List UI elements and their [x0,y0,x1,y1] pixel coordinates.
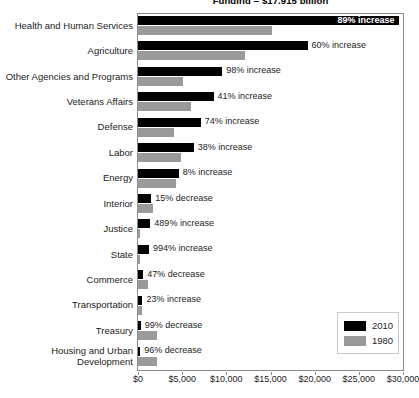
bar-value-label: 489% increase [154,218,214,228]
category-label: Health and Human Services [0,20,133,32]
x-axis-tick-label: $20,000 [298,374,331,385]
bar-1980 [138,357,157,366]
x-axis-tick-label: $0 [133,374,143,385]
bar-value-label: 41% increase [218,91,273,101]
bar-2010 [138,67,222,76]
bar-value-label: 38% increase [198,142,253,152]
category-label: Commerce [0,274,133,286]
bar-1980 [138,51,245,60]
x-axis-tick-label: $5,000 [168,374,196,385]
category-label: Veterans Affairs [0,96,133,108]
bar-2010 [138,143,194,152]
legend-label-2010: 2010 [372,321,393,331]
bar-2010 [138,245,149,254]
category-label-column: Health and Human ServicesAgricultureOthe… [0,0,137,358]
bar-value-label: 47% decrease [147,269,205,279]
bar-group: 60% increase [138,41,403,66]
bar-group: 994% increase [138,245,403,270]
category-label: Justice [0,223,133,235]
bar-group: 41% increase [138,92,403,117]
bar-2010 [138,92,214,101]
category-label: State [0,249,133,261]
bar-2010 [138,169,179,178]
category-label: Other Agencies and Programs [0,71,133,83]
bar-2010 [138,270,143,279]
x-axis-tick-label: $30,000 [387,374,419,385]
legend-swatch-2010 [344,321,366,331]
category-label: Interior [0,198,133,210]
bar-group: 74% increase [138,118,403,143]
bar-1980 [138,255,140,264]
bar-2010 [138,296,142,305]
bar-1980 [138,77,183,86]
x-axis-tick-label: $10,000 [210,374,243,385]
category-label: Defense [0,121,133,133]
bar-1980 [138,204,153,213]
chart-title: Funding = $17,915 billion [137,0,404,4]
bar-1980 [138,331,157,340]
bar-group: 489% increase [138,219,403,244]
bar-2010 [138,41,308,50]
bar-group: 15% decrease [138,194,403,219]
bar-1980 [138,229,140,238]
bar-2010 [138,321,141,330]
bar-value-label: 60% increase [312,40,367,50]
category-label: Energy [0,172,133,184]
bar-value-label: 99% decrease [145,320,203,330]
bar-1980 [138,128,174,137]
bar-value-label: 994% increase [153,243,213,253]
bar-2010 [138,347,140,356]
bar-value-label: 74% increase [205,116,260,126]
category-label: Transportation [0,299,133,311]
bar-1980 [138,280,148,289]
bar-group: 47% decrease [138,270,403,295]
bar-value-label: 23% increase [146,294,201,304]
legend-label-1980: 1980 [372,336,393,346]
bar-1980 [138,153,181,162]
bar-value-label: 8% increase [183,167,233,177]
bar-group: 38% increase [138,143,403,168]
bar-group: 89% increase [138,16,403,41]
bar-2010 [138,219,150,228]
bar-2010 [138,194,151,203]
category-label: Housing and Urban Development [0,345,133,368]
legend-swatch-1980 [344,336,366,346]
chart-legend: 2010 1980 [337,312,399,354]
x-axis-tick-label: $15,000 [254,374,287,385]
bar-value-label: 98% increase [226,65,281,75]
category-label: Agriculture [0,45,133,57]
bar-value-label: 96% decrease [144,345,202,355]
x-axis: $0$5,000$10,000$15,000$20,000$25,000$30,… [0,372,416,388]
bar-group: 98% increase [138,67,403,92]
bar-value-label: 89% increase [338,15,395,25]
bar-1980 [138,102,191,111]
category-label: Treasury [0,325,133,337]
category-label: Labor [0,147,133,159]
bar-1980 [138,306,142,315]
bar-1980 [138,179,176,188]
bar-2010 [138,118,201,127]
x-axis-tick-label: $25,000 [343,374,376,385]
bar-1980 [138,26,272,35]
legend-item-1980: 1980 [344,333,398,348]
bar-value-label: 15% decrease [155,193,213,203]
bar-group: 8% increase [138,169,403,194]
legend-item-2010: 2010 [344,318,398,333]
